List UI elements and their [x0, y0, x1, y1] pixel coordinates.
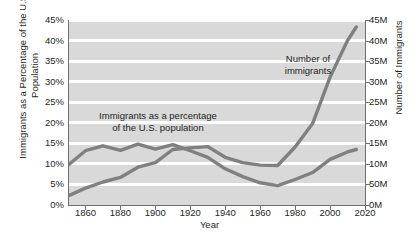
left-tick-label: 40% [18, 35, 64, 46]
x-axis-line [68, 205, 366, 206]
x-tick-mark [260, 205, 261, 210]
left-tick-label: 45% [18, 14, 64, 25]
left-tick-label: 20% [18, 117, 64, 128]
left-tick-label: 35% [18, 55, 64, 66]
x-tick-mark [225, 205, 226, 210]
left-tick-label: 25% [18, 96, 64, 107]
right-tick-label: 45M [369, 14, 415, 25]
annotation-line: immigrants [272, 65, 344, 77]
right-tick-label: 20M [369, 117, 415, 128]
left-tick-label: 10% [18, 158, 64, 169]
right-tick-mark [365, 82, 370, 83]
right-tick-label: 25M [369, 96, 415, 107]
annotation-line: Immigrants as a percentage [84, 110, 232, 122]
annotation-line: Number of [272, 53, 344, 65]
right-axis-tick-labels: 0M50M10M15M20M25M30M35M40M45M [369, 20, 415, 205]
x-tick-mark [330, 205, 331, 210]
number-series-label: Number ofimmigrants [272, 53, 344, 76]
right-tick-label: 15M [369, 137, 415, 148]
right-axis-line [365, 20, 366, 206]
x-tick-mark [190, 205, 191, 210]
right-tick-mark [365, 123, 370, 124]
left-axis-tick-labels: 0%5%10%15%20%25%30%35%40%45% [18, 20, 64, 205]
x-tick-mark [120, 205, 121, 210]
left-tick-label: 15% [18, 137, 64, 148]
right-tick-mark [365, 102, 370, 103]
right-tick-mark [365, 143, 370, 144]
left-tick-label: 5% [18, 178, 64, 189]
x-tick-mark [155, 205, 156, 210]
right-tick-label: 40M [369, 35, 415, 46]
right-tick-mark [365, 61, 370, 62]
right-tick-label: 30M [369, 76, 415, 87]
right-tick-mark [365, 164, 370, 165]
right-tick-label: 10M [369, 158, 415, 169]
right-tick-mark [365, 184, 370, 185]
right-tick-label: 50M [369, 178, 415, 189]
right-tick-label: 35M [369, 55, 415, 66]
right-tick-mark [365, 20, 370, 21]
x-tick-mark [295, 205, 296, 210]
x-axis-tick-labels: 186018801900192019401960198020002020 [0, 207, 419, 221]
left-axis-line [68, 20, 69, 206]
right-tick-mark [365, 205, 370, 206]
annotation-line: of the U.S. population [84, 122, 232, 134]
percentage-series-label: Immigrants as a percentageof the U.S. po… [84, 110, 232, 133]
x-tick-mark [85, 205, 86, 210]
immigration-line-chart: Immigrants as a Percentage of the U.S. P… [0, 0, 419, 244]
left-tick-label: 30% [18, 76, 64, 87]
right-tick-mark [365, 41, 370, 42]
